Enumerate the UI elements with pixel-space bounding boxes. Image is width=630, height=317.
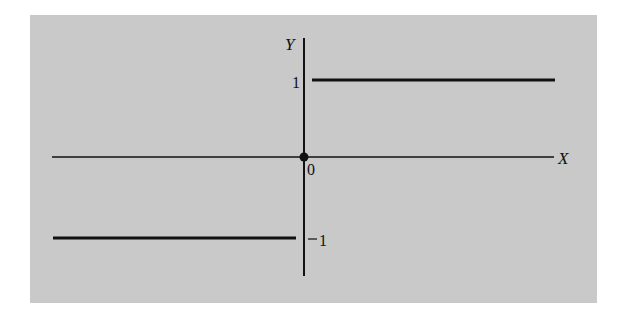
x-axis-label: X <box>557 149 569 168</box>
y-axis-label: Y <box>285 35 296 54</box>
tick-label-one: 1 <box>292 74 300 91</box>
origin-label: 0 <box>307 161 315 178</box>
signum-chart: Y X 1 0 0 1 <box>0 0 630 317</box>
tick-label-neg-one-digit: 1 <box>319 232 327 249</box>
